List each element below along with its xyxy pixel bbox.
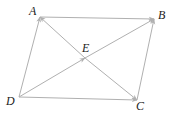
vector-ec — [85, 58, 137, 100]
vector-ab — [40, 17, 154, 19]
point-label-e: E — [82, 42, 89, 54]
point-label-c: C — [136, 100, 144, 112]
point-label-d: D — [6, 95, 15, 107]
vector-de — [19, 58, 85, 97]
vector-cb — [137, 19, 154, 100]
parallelogram-diagram — [0, 0, 170, 115]
vector-ea — [40, 17, 85, 58]
vector-eb — [85, 19, 154, 58]
vector-dc — [19, 97, 137, 100]
point-label-a: A — [29, 5, 36, 17]
point-label-b: B — [158, 9, 165, 21]
vector-da — [19, 17, 40, 97]
vector-lines — [19, 17, 154, 100]
